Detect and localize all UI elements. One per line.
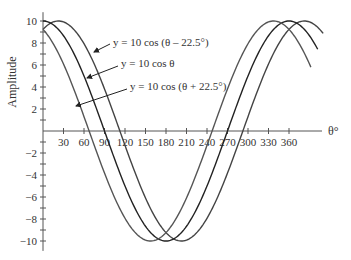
x-tick-label: 60 bbox=[79, 136, 91, 148]
y-tick-label: 8 bbox=[32, 37, 38, 49]
annotation-arrow bbox=[76, 89, 127, 106]
x-axis: 306090120150180210240270300330360 bbox=[43, 128, 322, 148]
y-tick-label: 10 bbox=[26, 15, 38, 27]
annotation-label: y = 10 cos θ bbox=[121, 57, 175, 69]
y-tick-label: −2 bbox=[25, 147, 37, 159]
x-tick-label: 330 bbox=[260, 136, 277, 148]
y-tick-label: 2 bbox=[32, 103, 38, 115]
x-tick-label: 360 bbox=[281, 136, 298, 148]
chart: 108642−2−4−6−8−10 3060901201501802102402… bbox=[0, 0, 351, 260]
x-tick-label: 210 bbox=[178, 136, 195, 148]
annotation-label: y = 10 cos (θ – 22.5°) bbox=[113, 36, 209, 49]
annotation-label: y = 10 cos (θ + 22.5°) bbox=[130, 80, 227, 93]
y-tick-label: −4 bbox=[25, 169, 37, 181]
y-tick-label: 6 bbox=[32, 59, 38, 71]
y-axis: 108642−2−4−6−8−10 bbox=[20, 12, 46, 251]
x-tick-label: 300 bbox=[240, 136, 257, 148]
y-tick-label: 4 bbox=[32, 81, 38, 93]
curve-annotations: y = 10 cos (θ – 22.5°)y = 10 cos θy = 10… bbox=[76, 36, 227, 106]
x-tick-label: 30 bbox=[58, 136, 70, 148]
x-axis-label: θ° bbox=[328, 124, 339, 138]
annotation-arrow bbox=[87, 66, 118, 78]
y-tick-label: −8 bbox=[25, 213, 37, 225]
x-tick-label: 150 bbox=[137, 136, 154, 148]
annotation-arrow bbox=[94, 44, 110, 52]
x-tick-label: 180 bbox=[158, 136, 175, 148]
y-tick-label: −10 bbox=[20, 235, 38, 247]
y-tick-label: −6 bbox=[25, 191, 37, 203]
y-axis-label: Amplitude bbox=[5, 56, 19, 107]
